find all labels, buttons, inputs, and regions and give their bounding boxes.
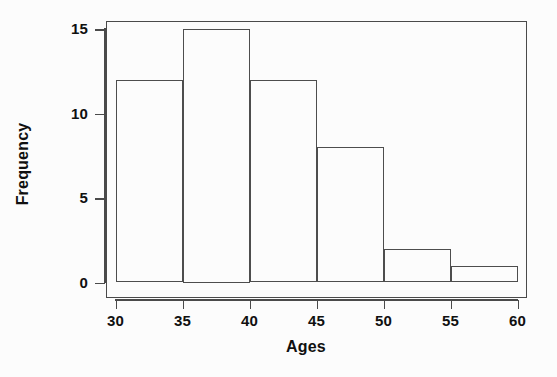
- x-axis-tick: [384, 300, 386, 309]
- histogram-figure: 051015 Frequency 30354045505560 Ages: [0, 0, 557, 377]
- y-axis-title: Frequency: [14, 104, 32, 224]
- y-tick-label: 10: [54, 105, 88, 122]
- x-axis-title: Ages: [256, 338, 356, 356]
- x-tick-label: 30: [91, 312, 141, 329]
- y-axis-tick: [95, 198, 105, 200]
- x-tick-label: 55: [426, 312, 476, 329]
- x-axis-tick: [116, 300, 118, 309]
- y-axis-line: [104, 28, 106, 283]
- x-tick-label: 35: [158, 312, 208, 329]
- y-axis-tick: [95, 283, 105, 285]
- plot-frame: [106, 21, 527, 298]
- y-tick-label: 0: [54, 274, 88, 291]
- x-axis-tick: [451, 300, 453, 309]
- y-tick-label: 15: [54, 20, 88, 37]
- y-axis-tick: [95, 114, 105, 116]
- x-axis-tick: [317, 300, 319, 309]
- y-axis-tick: [95, 29, 105, 31]
- x-axis-tick: [250, 300, 252, 309]
- x-tick-label: 40: [225, 312, 275, 329]
- x-axis-tick: [518, 300, 520, 309]
- x-tick-label: 45: [292, 312, 342, 329]
- y-tick-label: 5: [54, 189, 88, 206]
- x-tick-label: 60: [493, 312, 543, 329]
- x-tick-label: 50: [359, 312, 409, 329]
- x-axis-tick: [183, 300, 185, 309]
